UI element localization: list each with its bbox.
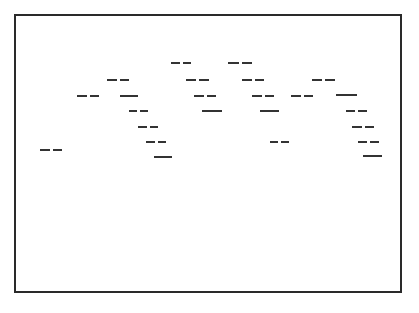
segment-diagram: [0, 0, 419, 313]
